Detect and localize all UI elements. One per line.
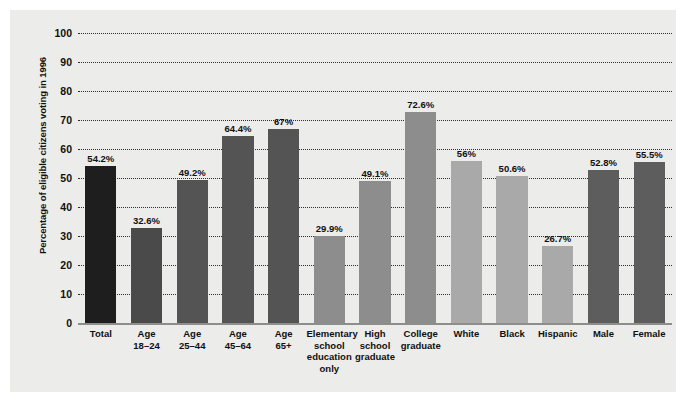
gridline-80 — [78, 91, 672, 92]
bar[interactable]: 52.8% — [588, 170, 619, 323]
bar[interactable]: 64.4% — [222, 136, 253, 323]
y-tick-label-20: 20 — [40, 259, 72, 271]
y-tick-label-10: 10 — [40, 288, 72, 300]
gridline-100 — [78, 33, 672, 34]
gridline-60 — [78, 149, 672, 150]
x-category-label: Elementary school education only — [306, 328, 352, 374]
bar[interactable]: 29.9% — [314, 236, 345, 323]
bar-value-label: 72.6% — [407, 99, 434, 110]
gridline-90 — [78, 62, 672, 63]
y-tick-label-50: 50 — [40, 172, 72, 184]
bar-value-label: 52.8% — [590, 157, 617, 168]
bar[interactable]: 55.5% — [634, 162, 665, 323]
bar-value-label: 49.1% — [362, 168, 389, 179]
bar[interactable]: 56% — [451, 161, 482, 323]
x-category-label: Hispanic — [535, 328, 581, 340]
bar-value-label: 67% — [274, 116, 293, 127]
bar-value-label: 56% — [457, 148, 476, 159]
bar[interactable]: 54.2% — [85, 166, 116, 323]
bar-value-label: 29.9% — [316, 223, 343, 234]
bar[interactable]: 49.1% — [359, 181, 390, 323]
y-tick-label-30: 30 — [40, 230, 72, 242]
bar[interactable]: 32.6% — [131, 228, 162, 323]
x-category-label: Female — [626, 328, 672, 340]
bar[interactable]: 72.6% — [405, 112, 436, 323]
bar[interactable]: 50.6% — [496, 176, 527, 323]
y-tick-label-80: 80 — [40, 85, 72, 97]
plot-area: 54.2%32.6%49.2%64.4%67%29.9%49.1%72.6%56… — [78, 33, 672, 323]
bar-value-label: 54.2% — [87, 153, 114, 164]
y-tick-label-60: 60 — [40, 143, 72, 155]
chart-figure: Percentage of eligible citizens voting i… — [0, 0, 686, 406]
bar-value-label: 49.2% — [179, 167, 206, 178]
x-category-label: Total — [78, 328, 124, 340]
x-category-label: Black — [489, 328, 535, 340]
x-category-label: College graduate — [398, 328, 444, 351]
bar-value-label: 32.6% — [133, 215, 160, 226]
bar[interactable]: 67% — [268, 129, 299, 323]
x-category-label: White — [444, 328, 490, 340]
y-tick-label-90: 90 — [40, 56, 72, 68]
bar[interactable]: 49.2% — [177, 180, 208, 323]
bar-value-label: 55.5% — [636, 149, 663, 160]
x-category-label: Age 18–24 — [124, 328, 170, 351]
bar-value-label: 64.4% — [224, 123, 251, 134]
x-category-label: Male — [581, 328, 627, 340]
x-category-label: Age 65+ — [261, 328, 307, 351]
gridline-70 — [78, 120, 672, 121]
y-tick-label-0: 0 — [40, 317, 72, 329]
x-category-label: Age 25–44 — [169, 328, 215, 351]
x-category-label: Age 45–64 — [215, 328, 261, 351]
bar-value-label: 26.7% — [544, 233, 571, 244]
y-tick-label-70: 70 — [40, 114, 72, 126]
y-tick-label-100: 100 — [40, 27, 72, 39]
bar[interactable]: 26.7% — [542, 246, 573, 323]
x-category-label: High school graduate — [352, 328, 398, 363]
bar-value-label: 50.6% — [499, 163, 526, 174]
gridline-0 — [78, 323, 672, 325]
y-tick-label-40: 40 — [40, 201, 72, 213]
